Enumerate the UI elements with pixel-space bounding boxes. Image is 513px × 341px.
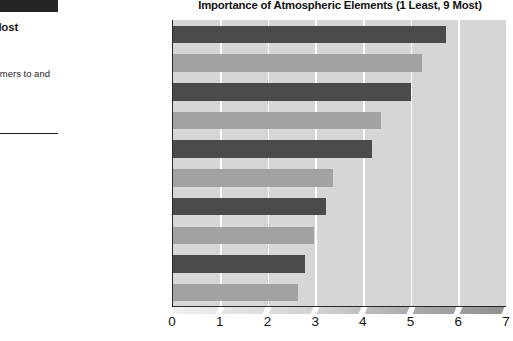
sidebar-heading: ic e Most bbox=[0, 20, 62, 35]
axis-notch-2 bbox=[263, 307, 272, 314]
bar-row: Flooring4.17 bbox=[173, 140, 506, 158]
x-tick-6: 6 bbox=[455, 315, 463, 329]
sidebar-divider bbox=[0, 133, 58, 134]
bar-row: Promotional events4.99 bbox=[173, 83, 506, 101]
chart-page: ic e Most ements mers to and buy- Import… bbox=[0, 0, 513, 341]
axis-notch-1 bbox=[215, 307, 224, 314]
sidebar-black-bar bbox=[0, 0, 58, 12]
sidebar-margin-column: ic e Most ements mers to and buy- bbox=[0, 0, 62, 341]
bar-row: Signs5.22 bbox=[173, 54, 506, 72]
x-tick-2: 2 bbox=[264, 315, 272, 329]
bar-audio-announcements[interactable]: Audio announcements2.96 bbox=[173, 227, 314, 245]
axis-notch-5 bbox=[406, 307, 415, 314]
axis-notch-6 bbox=[454, 307, 463, 314]
bar-mannequins[interactable]: Mannequins2.61 bbox=[173, 284, 298, 302]
x-tick-5: 5 bbox=[407, 315, 415, 329]
bar-row: Mannequins2.61 bbox=[173, 284, 506, 302]
x-tick-3: 3 bbox=[311, 315, 319, 329]
x-tick-7: 7 bbox=[502, 315, 510, 329]
sidebar-body-text: ements mers to and buy- bbox=[0, 67, 62, 95]
bar-row: Music3.35 bbox=[173, 169, 506, 187]
x-tick-1: 1 bbox=[216, 315, 224, 329]
bar-music[interactable]: Music3.35 bbox=[173, 169, 333, 187]
bar-video-screens[interactable]: Video screens2.77 bbox=[173, 255, 305, 273]
x-tick-0: 0 bbox=[168, 315, 176, 329]
bar-row: Video screens2.77 bbox=[173, 255, 506, 273]
bar-row: Audio announcements2.96 bbox=[173, 227, 506, 245]
axis-notch-4 bbox=[358, 307, 367, 314]
bar-row: Wall designs3.20 bbox=[173, 198, 506, 216]
bar-signs[interactable]: Signs5.22 bbox=[173, 54, 422, 72]
bar-lighting[interactable]: Lighting5.73 bbox=[173, 26, 446, 44]
bar-row: Fixtures4.35 bbox=[173, 112, 506, 130]
bar-flooring[interactable]: Flooring4.17 bbox=[173, 140, 372, 158]
bar-row: Lighting5.73 bbox=[173, 26, 506, 44]
axis-notch-7 bbox=[502, 307, 511, 314]
x-axis-tick-labels: 01234567 bbox=[172, 315, 508, 335]
bar-wall-designs[interactable]: Wall designs3.20 bbox=[173, 198, 326, 216]
bar-fixtures[interactable]: Fixtures4.35 bbox=[173, 112, 381, 130]
axis-notch-3 bbox=[311, 307, 320, 314]
x-tick-4: 4 bbox=[359, 315, 367, 329]
bar-promotional-events[interactable]: Promotional events4.99 bbox=[173, 83, 411, 101]
x-axis-shadow-band bbox=[172, 307, 508, 314]
chart-title: Importance of Atmospheric Elements (1 Le… bbox=[172, 0, 508, 11]
chart-plot-area: Lighting5.73Signs5.22Promotional events4… bbox=[172, 20, 506, 307]
